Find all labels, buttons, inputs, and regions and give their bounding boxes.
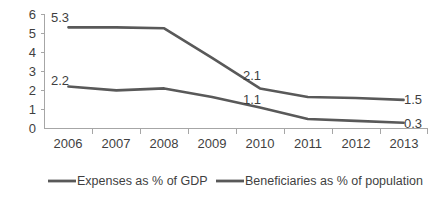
x-axis-tick-labels: 2006 2007 2008 2009 2010 2011 2012 2013	[54, 136, 419, 151]
y-axis-tick-marks	[41, 15, 45, 110]
axis-lines	[45, 14, 429, 129]
x-tick-label-2012: 2012	[342, 136, 371, 151]
data-label-expenses-2010: 2.1	[243, 68, 261, 83]
legend: Expenses as % of GDP Beneficiaries as % …	[48, 174, 423, 188]
data-label-expenses-2006: 5.3	[51, 10, 69, 25]
line-chart: 6 5 4 3 2 1 0	[0, 0, 435, 200]
x-tick-label-2011: 2011	[294, 136, 322, 151]
y-axis-tick-labels: 6 5 4 3 2 1 0	[29, 7, 36, 136]
series-group	[68, 27, 403, 122]
y-tick-label: 5	[29, 26, 36, 41]
y-tick-label: 2	[29, 83, 36, 98]
y-tick-label: 6	[29, 7, 36, 22]
data-label-beneficiaries-2006: 2.2	[51, 73, 69, 88]
data-label-expenses-2013: 1.5	[404, 92, 422, 107]
y-tick-label: 4	[29, 45, 36, 60]
x-tick-label-2013: 2013	[390, 136, 419, 151]
x-axis-tick-marks	[93, 129, 428, 134]
y-tick-label: 1	[29, 102, 36, 117]
x-tick-label-2010: 2010	[246, 136, 275, 151]
data-label-beneficiaries-2010: 1.1	[243, 92, 261, 107]
legend-label-expenses: Expenses as % of GDP	[77, 174, 208, 188]
chart-canvas: 6 5 4 3 2 1 0	[0, 0, 435, 200]
y-tick-label: 0	[29, 121, 36, 136]
y-tick-label: 3	[29, 64, 36, 79]
x-tick-label-2009: 2009	[198, 136, 227, 151]
data-label-beneficiaries-2013: 0.3	[404, 116, 422, 131]
x-tick-label-2006: 2006	[54, 136, 83, 151]
legend-label-beneficiaries: Beneficiaries as % of population	[245, 174, 423, 188]
x-tick-label-2008: 2008	[150, 136, 179, 151]
legend-item-beneficiaries[interactable]: Beneficiaries as % of population	[216, 174, 423, 188]
x-tick-label-2007: 2007	[102, 136, 131, 151]
series-line-beneficiaries	[68, 87, 403, 123]
legend-item-expenses[interactable]: Expenses as % of GDP	[48, 174, 208, 188]
